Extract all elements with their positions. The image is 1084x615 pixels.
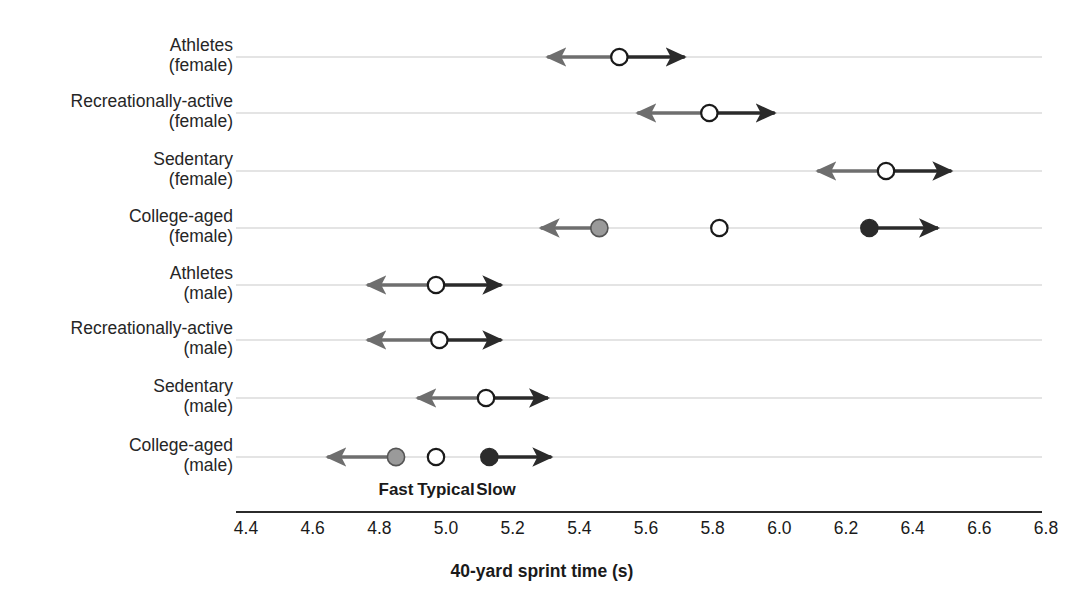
data-row-7 xyxy=(327,448,551,465)
category-label-primary: College-aged xyxy=(0,435,233,455)
data-row-0 xyxy=(547,49,684,65)
category-label-row-4: Athletes(male) xyxy=(0,263,233,303)
x-tick-5.0: 5.0 xyxy=(434,518,458,539)
marker-open xyxy=(478,390,494,406)
legend-label-typical: Typical xyxy=(417,480,474,500)
legend-label-slow: Slow xyxy=(476,480,516,500)
category-label-sex: (male) xyxy=(0,283,233,303)
x-tick-5.8: 5.8 xyxy=(701,518,725,539)
data-row-1 xyxy=(637,105,774,121)
category-label-sex: (male) xyxy=(0,455,233,475)
marker-open xyxy=(701,105,717,121)
x-axis-title: 40-yard sprint time (s) xyxy=(0,561,1084,582)
marker-open xyxy=(711,220,727,236)
sprint-time-chart: Athletes(female)Recreationally-active(fe… xyxy=(0,0,1084,615)
marker-filled-dark xyxy=(861,219,878,236)
legend-label-fast: Fast xyxy=(379,480,414,500)
x-tick-4.4: 4.4 xyxy=(234,518,258,539)
category-label-row-6: Sedentary(male) xyxy=(0,376,233,416)
x-tick-6.6: 6.6 xyxy=(967,518,991,539)
x-tick-6.4: 6.4 xyxy=(901,518,925,539)
category-label-primary: Sedentary xyxy=(0,376,233,396)
category-label-sex: (male) xyxy=(0,338,233,358)
gridlines xyxy=(236,57,1042,457)
x-tick-5.6: 5.6 xyxy=(634,518,658,539)
category-label-primary: Recreationally-active xyxy=(0,318,233,338)
category-label-primary: College-aged xyxy=(0,206,233,226)
marker-filled-gray xyxy=(387,448,404,465)
data-row-3 xyxy=(541,219,938,236)
marker-filled-dark xyxy=(481,448,498,465)
category-label-row-3: College-aged(female) xyxy=(0,206,233,246)
category-label-row-5: Recreationally-active(male) xyxy=(0,318,233,358)
data-row-6 xyxy=(417,390,548,406)
marker-open xyxy=(878,163,894,179)
data-row-2 xyxy=(817,163,951,179)
x-tick-5.4: 5.4 xyxy=(567,518,591,539)
category-label-primary: Sedentary xyxy=(0,149,233,169)
data-row-4 xyxy=(367,277,501,293)
category-label-sex: (female) xyxy=(0,226,233,246)
marker-open xyxy=(431,332,447,348)
category-label-row-1: Recreationally-active(female) xyxy=(0,91,233,131)
marker-open xyxy=(611,49,627,65)
category-label-sex: (male) xyxy=(0,396,233,416)
x-tick-5.2: 5.2 xyxy=(501,518,525,539)
category-label-sex: (female) xyxy=(0,111,233,131)
marker-filled-gray xyxy=(591,219,608,236)
category-label-primary: Athletes xyxy=(0,35,233,55)
category-label-sex: (female) xyxy=(0,55,233,75)
x-tick-6.8: 6.8 xyxy=(1034,518,1058,539)
x-tick-4.6: 4.6 xyxy=(300,518,324,539)
x-tick-6.0: 6.0 xyxy=(767,518,791,539)
x-tick-4.8: 4.8 xyxy=(367,518,391,539)
data-row-5 xyxy=(367,332,501,348)
category-label-row-7: College-aged(male) xyxy=(0,435,233,475)
category-label-sex: (female) xyxy=(0,169,233,189)
x-tick-6.2: 6.2 xyxy=(834,518,858,539)
marker-open xyxy=(428,449,444,465)
category-label-primary: Recreationally-active xyxy=(0,91,233,111)
marker-open xyxy=(428,277,444,293)
category-label-row-0: Athletes(female) xyxy=(0,35,233,75)
category-label-row-2: Sedentary(female) xyxy=(0,149,233,189)
category-label-primary: Athletes xyxy=(0,263,233,283)
